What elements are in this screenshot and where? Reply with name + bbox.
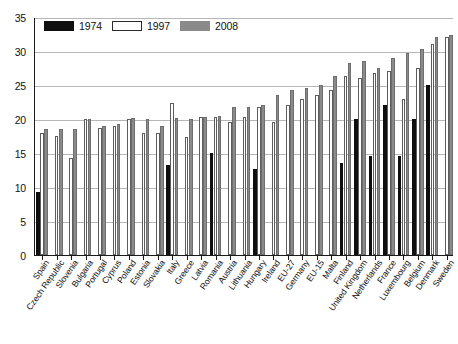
bar-1997 — [243, 117, 247, 255]
bar-1997 — [344, 76, 348, 255]
bar-2008 — [218, 116, 222, 255]
bar-group — [107, 18, 121, 255]
legend-label: 1997 — [147, 20, 170, 32]
bar-2008 — [88, 119, 92, 255]
bar-group — [425, 18, 439, 255]
bar-1997 — [358, 78, 362, 255]
bar-group — [338, 18, 352, 255]
bar-group — [64, 18, 78, 255]
bar-1997 — [286, 105, 290, 255]
bar-1997 — [156, 133, 160, 255]
x-axis-labels: SpainCzech RepublicSloveniaBulgariaPortu… — [34, 258, 453, 344]
bar-group — [151, 18, 165, 255]
bar-1997 — [69, 158, 73, 255]
bar-2008 — [420, 49, 424, 255]
bar-2008 — [247, 107, 251, 255]
bar-groups — [35, 18, 453, 255]
legend-swatch-icon-1974 — [44, 21, 74, 31]
bar-2008 — [276, 95, 280, 255]
bar-2008 — [261, 105, 265, 255]
bar-2008 — [146, 119, 150, 255]
bar-1997 — [170, 103, 174, 255]
bar-group — [179, 18, 193, 255]
bar-group — [78, 18, 92, 255]
bar-2008 — [44, 129, 48, 255]
bar-1997 — [315, 95, 319, 255]
bar-1974 — [210, 153, 214, 255]
bar-2008 — [175, 118, 179, 255]
bar-2008 — [131, 118, 135, 255]
bar-group — [324, 18, 338, 255]
bar-1997 — [113, 126, 117, 255]
bar-1997 — [373, 73, 377, 255]
bar-1997 — [199, 117, 203, 255]
bar-1997 — [431, 44, 435, 255]
bar-chart: 05101520253035 SpainCzech RepublicSloven… — [0, 0, 458, 344]
bar-1997 — [416, 68, 420, 255]
bar-group — [194, 18, 208, 255]
plot-area — [34, 18, 453, 256]
bar-group — [411, 18, 425, 255]
bar-2008 — [348, 63, 352, 255]
bar-group — [295, 18, 309, 255]
y-tick-label-0: 0 — [20, 250, 26, 262]
bar-1997 — [257, 107, 261, 255]
bar-2008 — [232, 107, 236, 255]
bar-1974 — [383, 105, 387, 255]
bar-group — [35, 18, 49, 255]
bar-group — [353, 18, 367, 255]
bar-1997 — [84, 119, 88, 255]
bar-1974 — [369, 156, 373, 255]
bar-1974 — [426, 85, 430, 255]
y-axis-labels: 05101520253035 — [0, 18, 30, 256]
bar-1997 — [402, 99, 406, 255]
bar-group — [281, 18, 295, 255]
bar-1974 — [412, 119, 416, 255]
bar-2008 — [160, 126, 164, 255]
bar-1974 — [36, 192, 40, 255]
bar-2008 — [319, 85, 323, 255]
bar-1997 — [387, 71, 391, 255]
bar-1997 — [329, 90, 333, 255]
bar-1997 — [185, 137, 189, 255]
bar-group — [93, 18, 107, 255]
bar-2008 — [102, 126, 106, 255]
bar-group — [440, 18, 454, 255]
bar-1997 — [445, 37, 449, 255]
bar-group — [252, 18, 266, 255]
legend-swatch-icon-2008 — [180, 21, 210, 31]
bar-2008 — [203, 117, 207, 255]
bar-1997 — [127, 119, 131, 255]
bar-2008 — [117, 124, 121, 255]
y-tick-label-30: 30 — [15, 46, 26, 58]
bar-group — [136, 18, 150, 255]
legend-label: 1974 — [79, 20, 102, 32]
bar-2008 — [73, 129, 77, 255]
bar-group — [266, 18, 280, 255]
legend-item-1997: 1997 — [112, 20, 170, 32]
bar-1974 — [354, 119, 358, 255]
bar-2008 — [59, 129, 63, 255]
bar-1997 — [98, 128, 102, 255]
bar-2008 — [305, 88, 309, 255]
bar-1974 — [340, 163, 344, 255]
bar-group — [165, 18, 179, 255]
bar-1997 — [228, 122, 232, 255]
bar-2008 — [333, 76, 337, 255]
bar-group — [122, 18, 136, 255]
bar-1974 — [398, 156, 402, 255]
y-tick-label-5: 5 — [20, 216, 26, 228]
bar-group — [208, 18, 222, 255]
bar-1997 — [300, 99, 304, 255]
bar-1997 — [142, 133, 146, 255]
bar-group — [396, 18, 410, 255]
y-tick-label-20: 20 — [15, 114, 26, 126]
bar-group — [310, 18, 324, 255]
bar-group — [49, 18, 63, 255]
bar-1974 — [166, 165, 170, 255]
bar-2008 — [362, 61, 366, 255]
bar-1997 — [40, 133, 44, 255]
bar-2008 — [449, 35, 453, 255]
legend-item-2008: 2008 — [180, 20, 238, 32]
bar-2008 — [290, 90, 294, 255]
